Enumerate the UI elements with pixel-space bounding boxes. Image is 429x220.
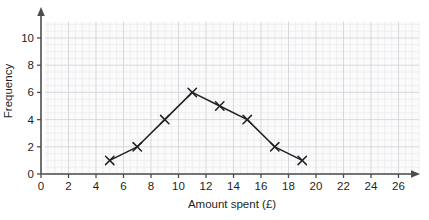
x-axis-tick-labels: 02468101214161820222426: [38, 180, 405, 192]
x-tick-label: 26: [392, 180, 405, 192]
y-axis-tick-labels: 0246810: [21, 32, 34, 180]
y-tick-label: 6: [28, 86, 34, 98]
y-tick-label: 2: [28, 141, 34, 153]
x-axis-title: Amount spent (£): [188, 198, 276, 210]
x-tick-label: 10: [172, 180, 185, 192]
y-axis: [37, 7, 45, 174]
x-tick-label: 22: [337, 180, 350, 192]
y-axis-title: Frequency: [2, 64, 14, 119]
x-tick-label: 14: [227, 180, 240, 192]
x-tick-label: 6: [120, 180, 126, 192]
x-tick-label: 0: [38, 180, 44, 192]
x-tick-label: 2: [65, 180, 71, 192]
y-tick-label: 0: [28, 168, 34, 180]
frequency-polygon-chart: 0246810 02468101214161820222426 Amount s…: [0, 0, 429, 220]
y-axis-arrow-icon: [37, 7, 45, 16]
y-tick-label: 4: [28, 114, 35, 126]
x-tick-label: 12: [200, 180, 213, 192]
x-tick-label: 20: [310, 180, 323, 192]
chart-canvas: 0246810 02468101214161820222426 Amount s…: [0, 0, 429, 220]
x-tick-label: 8: [148, 180, 154, 192]
y-tick-label: 10: [21, 32, 34, 44]
y-tick-label: 8: [28, 59, 34, 71]
x-tick-label: 24: [365, 180, 378, 192]
x-tick-label: 4: [93, 180, 100, 192]
x-tick-label: 18: [282, 180, 295, 192]
x-tick-label: 16: [255, 180, 268, 192]
